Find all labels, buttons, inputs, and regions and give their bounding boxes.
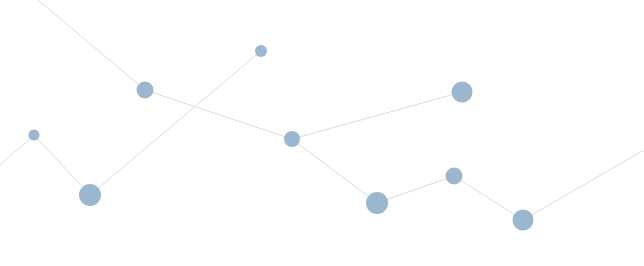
- graph-edge: [292, 139, 377, 203]
- graph-node-d: [255, 45, 267, 57]
- graph-edge: [90, 51, 261, 195]
- network-graph-canvas: [0, 0, 644, 266]
- graph-edge: [0, 135, 34, 165]
- graph-node-b: [79, 184, 101, 206]
- graph-edge: [145, 90, 292, 139]
- graph-node-f: [366, 192, 388, 214]
- graph-edge: [292, 92, 462, 139]
- graph-node-h: [446, 168, 463, 185]
- graph-edge: [523, 150, 644, 220]
- network-graph: [0, 0, 644, 266]
- graph-edge: [454, 176, 523, 220]
- graph-node-c: [137, 82, 154, 99]
- graph-node-i: [513, 210, 534, 231]
- graph-node-g: [452, 82, 473, 103]
- graph-edge: [34, 135, 90, 195]
- graph-edge: [38, 0, 145, 90]
- node-layer: [29, 45, 534, 231]
- graph-edge: [377, 176, 454, 203]
- graph-node-a: [29, 130, 40, 141]
- graph-node-e: [284, 131, 300, 147]
